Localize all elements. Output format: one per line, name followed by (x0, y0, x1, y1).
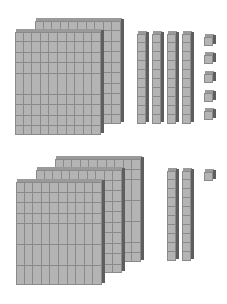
ten-rod-face (167, 171, 176, 261)
hundred-flat-side (141, 157, 144, 260)
hundred-flat-side (101, 30, 104, 133)
ten-rod-side (146, 32, 149, 122)
one-cube-side (213, 72, 216, 81)
one-cube-side (213, 53, 216, 62)
ten-rod-side (161, 32, 164, 122)
ten-rod-face (137, 34, 146, 124)
hundred-flat-face (16, 182, 102, 285)
hundred-flat-side (122, 168, 125, 271)
one-cube-face (204, 74, 213, 83)
ten-rod-face (182, 34, 191, 124)
ten-rod-side (191, 32, 194, 122)
ten-rod-face (167, 34, 176, 124)
one-cube-face (204, 172, 213, 181)
ten-rod-face (182, 171, 191, 261)
one-cube-face (204, 93, 213, 102)
one-cube-face (204, 37, 213, 46)
hundred-flat-face (15, 32, 101, 135)
ten-rod-face (152, 34, 161, 124)
ten-rod-side (191, 169, 194, 259)
ten-rod-side (176, 32, 179, 122)
one-cube-side (213, 170, 216, 179)
one-cube-side (213, 35, 216, 44)
one-cube-side (213, 109, 216, 118)
hundred-flat-side (121, 19, 124, 122)
ten-rod-side (176, 169, 179, 259)
one-cube-face (204, 55, 213, 64)
one-cube-side (213, 91, 216, 100)
hundred-flat-side (102, 180, 105, 283)
one-cube-face (204, 111, 213, 120)
